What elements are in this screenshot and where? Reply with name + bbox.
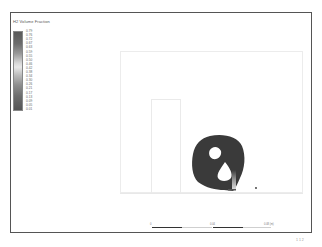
scale-bar: 0 0.04 0.08 (m) <box>150 224 280 232</box>
scale-segment <box>152 227 182 228</box>
legend-title: H2 Volume Fraction <box>13 19 50 24</box>
stray-contour-dot <box>255 187 257 189</box>
page-number: 1 1 2 <box>296 238 304 242</box>
scale-segment <box>213 227 243 228</box>
h2-plume-contour <box>188 132 268 196</box>
scale-segment <box>243 227 271 228</box>
scale-label: 0 <box>150 223 151 226</box>
scale-label: 0.08 (m) <box>264 223 274 226</box>
colorbar-tick: 0.01 <box>26 108 32 111</box>
scale-label: 0.04 <box>210 223 215 226</box>
jet-core <box>232 170 236 190</box>
colorbar-ticks: 0.79 0.76 0.72 0.67 0.63 0.59 0.55 0.50 … <box>26 30 46 112</box>
inlet-column <box>151 99 181 193</box>
colorbar <box>13 31 23 111</box>
scale-segment <box>182 227 212 228</box>
